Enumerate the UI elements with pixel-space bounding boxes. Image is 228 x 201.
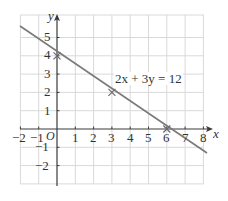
x-tick-label: 3 <box>108 131 115 144</box>
y-tick-label: 5 <box>44 30 51 43</box>
x-tick-label: 5 <box>145 131 152 144</box>
y-tick-label: 4 <box>44 48 51 61</box>
y-tick-label: −2 <box>35 159 49 172</box>
y-axis-label: y <box>48 9 54 22</box>
y-tick-label: 2 <box>44 85 51 98</box>
x-tick-label: 6 <box>163 131 170 144</box>
x-tick-label: −2 <box>12 131 26 144</box>
x-tick-label: 2 <box>90 131 97 144</box>
x-tick-label: 8 <box>200 131 207 144</box>
x-tick-label: −1 <box>30 131 44 144</box>
x-tick-label: 1 <box>72 131 79 144</box>
equation-label: 2x + 3y = 12 <box>114 72 183 85</box>
y-tick-label: 3 <box>44 67 51 80</box>
x-tick-label: 7 <box>182 131 189 144</box>
x-axis-label: x <box>213 127 219 140</box>
x-tick-label: 4 <box>127 131 134 144</box>
y-tick-label: 1 <box>44 104 51 117</box>
